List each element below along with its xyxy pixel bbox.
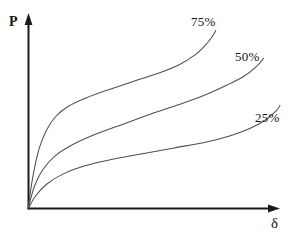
y-axis-label: P [9,14,18,30]
chart-background [0,0,294,240]
load-deflection-chart: P δ 75% 50% 25% [0,0,294,240]
series-label-25-percent: 25% [255,110,279,126]
series-label-75-percent: 75% [191,14,215,30]
x-axis-label: δ [271,215,278,232]
series-label-50-percent: 50% [235,49,259,65]
chart-canvas [0,0,294,240]
